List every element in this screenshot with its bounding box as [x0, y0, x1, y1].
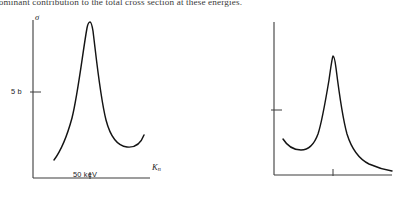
x-axis-label-kn: Kn — [152, 162, 161, 172]
x-axis-label-subscript: n — [158, 165, 161, 172]
y-tick-label-5b: 5 b — [11, 87, 22, 96]
capture-cross-section-plot — [206, 0, 413, 198]
figure-page: dominant contribution to the total cross… — [0, 0, 413, 198]
total-cross-section-plot — [0, 0, 206, 198]
resonance-curve — [283, 56, 392, 171]
y-axis-label-sigma: σ — [35, 12, 39, 22]
chart-panel-capture-cross-section: σ(n,γ) 10 mb 50 keV Kn — [206, 0, 413, 198]
resonance-curve — [54, 22, 144, 160]
x-tick-label-50kev: 50 keV — [73, 170, 97, 179]
chart-panel-total-cross-section: σ 5 b 50 keV Kn — [0, 0, 206, 198]
